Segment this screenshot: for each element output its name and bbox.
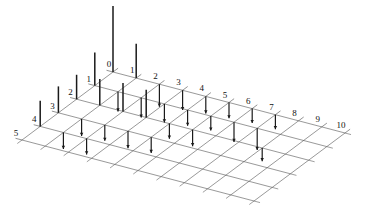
y-axis-tick [107, 70, 114, 72]
stem-arrowhead [168, 136, 171, 139]
x-axis-tick-front [203, 189, 208, 193]
x-axis-tick-front [64, 152, 69, 156]
stem-arrowhead [274, 126, 277, 129]
x-tick-label-0: 0 [107, 59, 112, 69]
x-axis-tick-front [249, 201, 254, 205]
plot-canvas: 01234567891012345 [0, 0, 367, 222]
x-axis-tick-front [40, 146, 45, 150]
stem-arrowhead [80, 133, 83, 136]
stem-arrowhead [186, 123, 189, 126]
x-axis-tick [229, 99, 234, 103]
x-axis-tick-front [17, 140, 22, 144]
y-tick-label-5: 5 [14, 128, 19, 138]
x-axis-tick [206, 93, 211, 97]
stem-arrowhead [62, 146, 65, 149]
x-tick-label-6: 6 [246, 96, 251, 106]
x-tick-label-1: 1 [130, 65, 135, 75]
stem-arrowhead [256, 147, 259, 150]
x-axis-tick-front [226, 195, 231, 199]
y-axis-tick-right [345, 133, 351, 135]
x-axis-tick-front [87, 158, 92, 162]
y-axis-tick [88, 84, 95, 86]
x-tick-label-3: 3 [176, 77, 181, 87]
y-axis-tick [52, 111, 59, 113]
x-axis-tick [113, 68, 118, 72]
y-axis-tick-right [309, 160, 315, 162]
stem-arrowhead [204, 110, 207, 113]
x-tick-label-10: 10 [337, 120, 347, 130]
stem-arrowhead [103, 138, 106, 141]
x-tick-label-2: 2 [153, 71, 158, 81]
stem-arrowhead [150, 150, 153, 153]
y-axis-tick-right [290, 174, 296, 176]
stem-arrowhead [191, 143, 194, 146]
y-tick-label-2: 2 [68, 87, 73, 97]
stem-arrowhead [85, 151, 88, 154]
stem-arrowhead [251, 120, 254, 123]
x-tick-label-9: 9 [316, 114, 321, 124]
stem-arrowhead [209, 127, 212, 130]
x-axis-tick [183, 86, 188, 90]
x-axis-tick [345, 129, 350, 133]
stem-arrowhead [126, 145, 129, 148]
x-axis-tick [322, 123, 327, 127]
x-axis-tick-front [110, 164, 115, 168]
x-axis-tick [299, 117, 304, 121]
stem-arrowhead [227, 115, 230, 118]
x-axis-tick-front [180, 183, 185, 187]
x-tick-label-4: 4 [200, 83, 205, 93]
stem-arrowhead [261, 158, 264, 161]
y-axis-tick [70, 97, 77, 99]
y-tick-label-4: 4 [32, 114, 37, 124]
y-axis-tick [34, 125, 41, 127]
x-tick-label-7: 7 [269, 102, 274, 112]
x-axis-tick [275, 111, 280, 115]
y-tick-label-1: 1 [87, 74, 92, 84]
x-tick-label-8: 8 [292, 108, 297, 118]
y-axis-tick-right [272, 187, 278, 189]
x-axis-tick-front [133, 171, 138, 175]
stem3-plot-figure: 01234567891012345 [0, 0, 367, 222]
grid-layer [16, 68, 352, 204]
stem-layer [40, 6, 277, 161]
x-axis-tick [136, 74, 141, 78]
x-tick-label-5: 5 [223, 90, 228, 100]
y-axis-tick-right [254, 201, 260, 203]
stem-arrowhead [158, 103, 161, 106]
y-axis-tick [16, 138, 23, 140]
y-axis-tick-right [327, 147, 333, 149]
x-axis-tick-front [156, 177, 161, 181]
x-axis-tick [159, 80, 164, 84]
y-tick-label-3: 3 [50, 101, 55, 111]
x-axis-tick [252, 105, 257, 109]
